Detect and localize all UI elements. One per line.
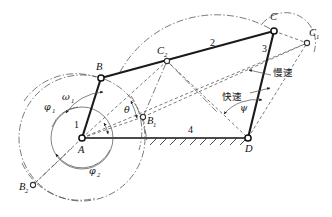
main-linkage: [82, 31, 274, 138]
label-D: D: [244, 143, 253, 154]
label-link-2: 2: [210, 37, 215, 48]
link-3-rocker-CD: [248, 31, 274, 138]
joint-C1: [304, 40, 309, 45]
label-link-4: 4: [188, 124, 193, 135]
joint-C2: [164, 58, 169, 63]
coupler-alt-1: [143, 43, 307, 117]
link-2-coupler-BC: [101, 31, 274, 78]
label-C2-sub: 2: [164, 51, 168, 58]
label-fast-speed: 快速: [222, 91, 242, 102]
label-link-1: 1: [74, 119, 79, 130]
label-C: C: [270, 11, 278, 22]
label-phi2: φ: [89, 165, 96, 176]
joint-B2: [30, 182, 35, 187]
label-link-3: 3: [262, 43, 267, 54]
label-A: A: [77, 144, 85, 155]
label-psi: ψ: [240, 102, 248, 113]
label-phi2-sub: 2: [97, 171, 101, 178]
joint-B1: [140, 114, 145, 119]
figure-canvas: A B B 1 B 2 C C 1 C 2 D 1 2 3 4 φ 1 φ 2 …: [0, 0, 332, 217]
joint-C: [271, 28, 277, 34]
chord-c-c1: [274, 31, 307, 43]
b2-to-a-stub: [33, 148, 72, 185]
label-omega1: ω: [62, 91, 70, 102]
joint-A: [79, 135, 85, 141]
label-B: B: [96, 61, 103, 72]
label-B1-sub: 1: [153, 121, 156, 128]
rocker-extreme-1: [248, 43, 307, 138]
ground-hatching: [150, 138, 247, 145]
label-omega1-sub: 1: [71, 97, 74, 104]
joint-D: [245, 135, 251, 141]
theta-arc: [131, 101, 137, 118]
label-slow-speed: 慢速: [273, 67, 293, 78]
label-C1-sub: 1: [316, 33, 319, 40]
label-phi1: φ: [44, 101, 51, 112]
slow-speed-leader: [249, 70, 271, 75]
label-phi1-sub: 1: [52, 107, 55, 114]
link-number-labels: 1 2 3 4: [74, 37, 267, 135]
b1-to-c2: [143, 61, 167, 117]
point-labels: A B B 1 B 2 C C 1 C 2 D: [19, 11, 319, 194]
coupler-trace-arc: [120, 15, 274, 72]
label-B2-sub: 2: [25, 187, 29, 194]
ray-a-to-c1: [82, 43, 307, 138]
linkage-diagram: A B B 1 B 2 C C 1 C 2 D 1 2 3 4 φ 1 φ 2 …: [0, 0, 332, 217]
label-theta: θ: [124, 104, 130, 115]
ground-link-4: [82, 138, 248, 145]
angle-arcs: [52, 70, 271, 168]
joint-B: [98, 75, 104, 81]
